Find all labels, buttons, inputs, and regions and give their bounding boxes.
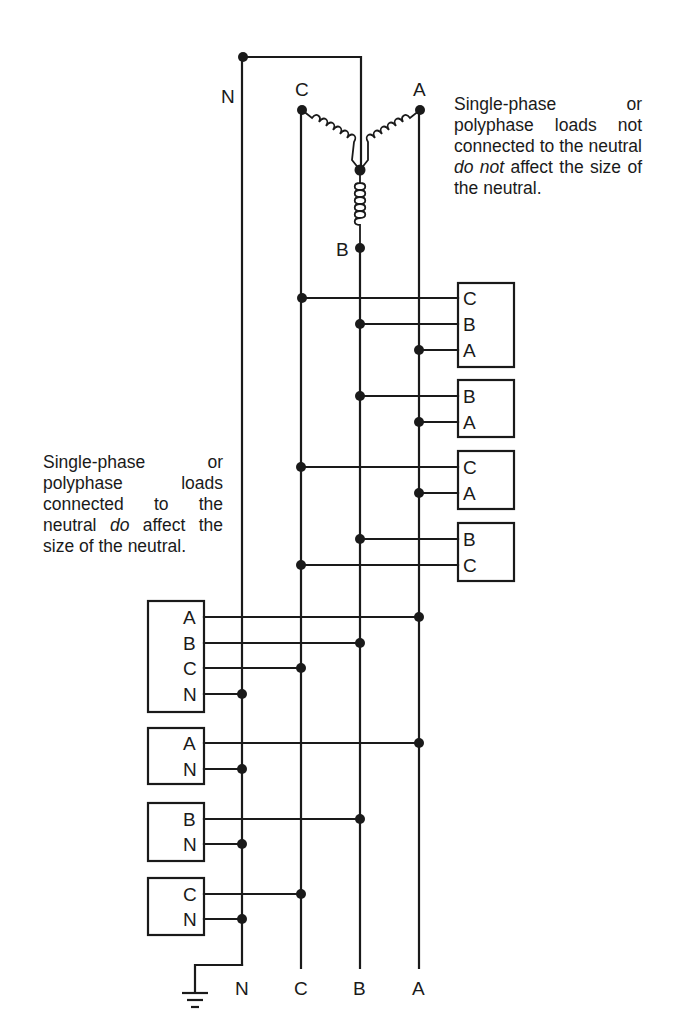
coil-a-winding [360,110,420,170]
terminal-b-dot [355,243,365,253]
note-connected-to-neutral: Single-phase or polyphase loads connecte… [43,452,223,557]
junction-dot [414,738,424,748]
junction-dot [355,638,365,648]
coil-c-winding [302,110,360,170]
junction-dot [296,663,306,673]
pin-label: B [183,809,196,830]
star-point-dot [355,165,366,176]
junction-dot [238,52,248,62]
pin-label: N [183,909,197,930]
pin-label: B [463,386,476,407]
pin-label: B [463,314,476,335]
note-emphasis: do not [454,157,504,177]
bus-label-n: N [235,978,249,999]
junction-dot [296,560,306,570]
pin-label: C [463,457,477,478]
junction-dots [237,52,425,924]
pin-label: N [183,684,197,705]
junction-dot [414,488,424,498]
junction-dot [355,319,365,329]
junction-dot [296,462,306,472]
bus-label-c: C [294,978,308,999]
pin-label: B [183,633,196,654]
pin-label: A [463,412,476,433]
pin-label: C [183,658,197,679]
pin-label: A [463,483,476,504]
note-text: Single-phase or polyphase loads not conn… [454,94,642,156]
bus-label-b: B [353,978,366,999]
pin-label: N [183,834,197,855]
junction-dot [355,814,365,824]
pin-label: C [463,288,477,309]
terminal-c-dot [297,105,307,115]
ground-icon [182,993,208,1007]
junction-dot [297,293,307,303]
coil-b-winding [355,170,366,248]
note-not-connected-to-neutral: Single-phase or polyphase loads not conn… [454,94,642,199]
junction-dot [414,345,424,355]
pin-label: C [183,884,197,905]
source-label-c: C [295,79,309,100]
junction-dot [414,417,424,427]
source-label-b: B [336,239,349,260]
junction-dot [237,839,247,849]
pin-label: N [183,759,197,780]
source-label-a: A [413,79,426,100]
pin-label: C [463,555,477,576]
pin-label: A [183,733,196,754]
junction-dot [237,689,247,699]
junction-dot [414,612,424,622]
note-emphasis: do [110,515,129,535]
junction-dot [296,889,306,899]
bus-label-a: A [412,978,425,999]
pin-label: A [183,607,196,628]
junction-dot [355,534,365,544]
pin-label: A [463,340,476,361]
junction-dot [237,764,247,774]
junction-dot [237,914,247,924]
junction-dot [355,391,365,401]
pin-label: B [463,529,476,550]
terminal-a-dot [415,105,425,115]
source-label-n: N [221,86,235,107]
